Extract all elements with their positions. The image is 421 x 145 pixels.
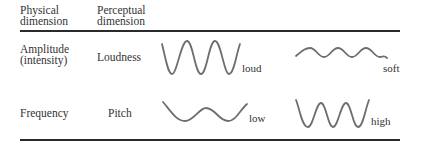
- high-label: high: [371, 116, 391, 127]
- high-pitch-wave-icon: [0, 0, 421, 145]
- bottom-rule: [20, 139, 400, 141]
